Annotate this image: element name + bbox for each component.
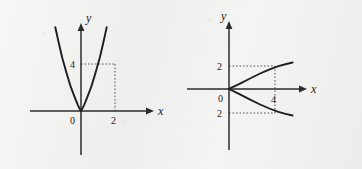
- x-tick-label-2: 2: [111, 115, 116, 126]
- origin-label: 0: [218, 93, 223, 104]
- y-tick-label-4: 4: [70, 59, 75, 70]
- x-axis-label: x: [310, 82, 317, 96]
- y-axis-arrowhead: [78, 23, 85, 31]
- y-tick-label-minus-2: 2: [217, 108, 222, 119]
- x-axis-label: x: [157, 104, 164, 118]
- y-axis-label: y: [220, 9, 227, 23]
- x-tick-label-4: 4: [271, 94, 276, 105]
- parabola-x-equals-y-squared-svg: x y 0 2 2 4: [181, 0, 362, 169]
- chart-panel-right: x y 0 2 2 4: [181, 0, 362, 169]
- y-axis-label: y: [85, 11, 92, 25]
- origin-label: 0: [70, 115, 75, 126]
- x-axis-arrowhead: [299, 86, 307, 93]
- parabola-y-equals-x-squared-svg: x y 0 2 4: [0, 0, 181, 169]
- x-axis-arrowhead: [146, 108, 154, 115]
- y-axis-arrowhead: [226, 21, 233, 29]
- chart-panel-left: x y 0 2 4: [0, 0, 181, 169]
- y-tick-label-2: 2: [217, 61, 222, 72]
